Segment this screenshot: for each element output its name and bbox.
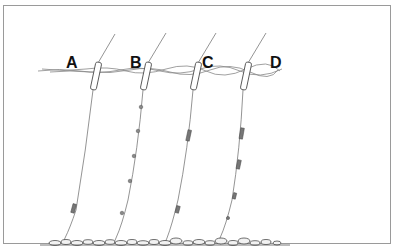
rig-label-c: C xyxy=(202,55,214,71)
shot-lower-bulk xyxy=(175,206,180,214)
float-rigs-diagram xyxy=(0,0,401,249)
rig-label-a: A xyxy=(66,55,78,71)
rig-label-d: D xyxy=(270,55,282,71)
shot-upper-bulk xyxy=(186,130,192,141)
rig-label-b: B xyxy=(130,55,142,71)
riverbed-stones xyxy=(49,238,281,246)
